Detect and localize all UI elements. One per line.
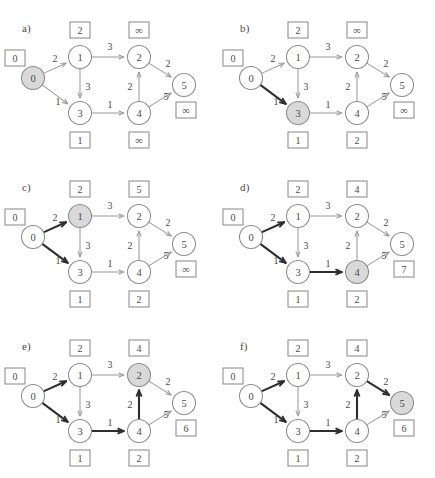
node-3: 3 (69, 261, 92, 284)
node-label-1: 1 (77, 370, 82, 381)
edge-4-to-5: 5 (149, 91, 171, 107)
node-1: 1 (69, 364, 92, 387)
edge-weight-4-2: 2 (346, 240, 351, 251)
edge-0-to-1: 2 (262, 371, 284, 392)
distance-box-node-2: 4 (129, 340, 149, 356)
edge-1-to-3: 3 (296, 228, 309, 257)
distance-box-node-0: 0 (223, 50, 243, 66)
distance-value-node-0: 0 (231, 53, 236, 64)
edge-weight-4-5: 5 (382, 250, 387, 261)
panel-a: a)2133122502∞1∞∞012345 (0, 0, 217, 159)
edge-weight-2-5: 2 (384, 376, 389, 387)
node-1: 1 (287, 46, 310, 69)
edge-0-to-1: 2 (44, 53, 66, 74)
edge-0-to-1: 2 (44, 212, 66, 233)
node-label-4: 4 (354, 426, 360, 437)
node-label-0: 0 (248, 232, 253, 243)
edge-weight-0-3: 1 (274, 414, 279, 425)
edge-2-to-5: 2 (149, 376, 171, 395)
distance-box-node-5: ∞ (176, 102, 196, 118)
edge-3-to-4: 1 (92, 417, 124, 434)
distance-value-node-0: 0 (13, 371, 18, 382)
node-label-5: 5 (181, 239, 186, 250)
edge-weight-0-3: 1 (56, 414, 61, 425)
edge-weight-4-2: 2 (128, 240, 133, 251)
distance-box-node-1: 2 (70, 22, 90, 38)
panel-e: e)21331225024126012345 (0, 318, 217, 477)
edge-weight-3-4: 1 (108, 99, 113, 110)
node-4: 4 (128, 420, 151, 443)
edge-weight-0-3: 1 (274, 96, 279, 107)
edge-weight-3-4: 1 (326, 417, 331, 428)
edge-weight-1-2: 3 (326, 200, 331, 211)
distance-value-node-4: ∞ (135, 135, 143, 146)
graph-e: 21331225024126012345 (0, 318, 217, 477)
panel-d: d)21331225024127012345 (218, 159, 435, 318)
node-label-5: 5 (399, 239, 404, 250)
edge-1-to-2: 3 (92, 41, 124, 60)
edge-weight-1-2: 3 (108, 359, 113, 370)
edge-weight-2-5: 2 (384, 217, 389, 228)
edge-0-to-1: 2 (44, 371, 66, 392)
node-2: 2 (128, 364, 151, 387)
edge-4-to-2: 2 (128, 390, 142, 419)
node-label-4: 4 (354, 267, 360, 278)
edge-weight-0-1: 2 (53, 212, 58, 223)
edge-weight-2-5: 2 (166, 376, 171, 387)
distance-box-node-2: ∞ (347, 22, 367, 38)
node-label-1: 1 (77, 52, 82, 63)
edge-weight-4-5: 5 (382, 409, 387, 420)
distance-box-node-1: 2 (288, 181, 308, 197)
node-label-0: 0 (30, 232, 35, 243)
node-label-1: 1 (77, 211, 82, 222)
node-label-0: 0 (30, 73, 35, 84)
distance-box-node-3: 1 (288, 450, 308, 466)
node-label-3: 3 (295, 108, 300, 119)
distance-value-node-5: ∞ (182, 105, 190, 116)
edge-weight-3-4: 1 (326, 258, 331, 269)
node-label-5: 5 (399, 80, 404, 91)
distance-box-node-2: 4 (347, 181, 367, 197)
edge-weight-1-2: 3 (108, 200, 113, 211)
edge-4-to-2: 2 (346, 390, 360, 419)
node-2: 2 (128, 46, 151, 69)
edge-2-to-5: 2 (367, 376, 389, 395)
node-2: 2 (128, 205, 151, 228)
node-label-5: 5 (181, 398, 186, 409)
edge-weight-1-2: 3 (326, 41, 331, 52)
dijkstra-algorithm-figure: a)2133122502∞1∞∞012345b)2133122502∞12∞01… (0, 0, 435, 478)
distance-value-node-4: 2 (137, 294, 142, 305)
node-1: 1 (69, 46, 92, 69)
node-4: 4 (128, 261, 151, 284)
edge-0-to-1: 2 (262, 53, 284, 74)
node-3: 3 (69, 102, 92, 125)
edge-weight-1-3: 3 (304, 240, 309, 251)
edge-2-to-5: 2 (149, 58, 171, 77)
node-4: 4 (346, 420, 369, 443)
node-3: 3 (287, 261, 310, 284)
node-label-3: 3 (295, 426, 300, 437)
distance-box-node-5: ∞ (394, 102, 414, 118)
distance-box-node-0: 0 (5, 368, 25, 384)
node-3: 3 (287, 102, 310, 125)
node-4: 4 (346, 102, 369, 125)
distance-value-node-5: ∞ (400, 105, 408, 116)
edge-weight-1-3: 3 (304, 81, 309, 92)
distance-value-node-3: 1 (296, 135, 301, 146)
node-label-2: 2 (136, 370, 141, 381)
node-label-1: 1 (295, 211, 300, 222)
distance-box-node-3: 1 (288, 132, 308, 148)
edge-weight-4-5: 5 (382, 91, 387, 102)
node-1: 1 (69, 205, 92, 228)
graph-f: 21331225024126012345 (218, 318, 435, 477)
distance-box-node-1: 2 (288, 22, 308, 38)
graph-d: 21331225024127012345 (218, 159, 435, 318)
distance-value-node-5: 6 (184, 423, 189, 434)
distance-box-node-0: 0 (5, 50, 25, 66)
node-label-0: 0 (248, 391, 253, 402)
node-label-4: 4 (136, 426, 142, 437)
edge-weight-4-2: 2 (128, 81, 133, 92)
node-0: 0 (240, 385, 263, 408)
distance-box-node-5: 6 (176, 420, 196, 436)
distance-value-node-5: 6 (402, 423, 407, 434)
